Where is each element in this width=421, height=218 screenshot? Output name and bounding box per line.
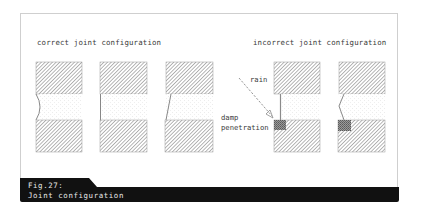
joint-correct-weathered — [165, 62, 213, 152]
damp-label: damp — [221, 113, 238, 123]
joint-correct-flush — [100, 62, 147, 152]
figure-number: Fig.27: — [28, 181, 63, 190]
joint-incorrect-recessed — [274, 62, 320, 152]
joint-correct-concave — [36, 62, 82, 152]
damp-area — [338, 120, 351, 131]
joint-incorrect-v-struck — [338, 62, 385, 152]
rain-label: rain — [250, 75, 267, 85]
penetration-label: penetration — [221, 123, 269, 133]
damp-area — [274, 120, 286, 130]
figure-title: Joint configuration — [28, 191, 124, 200]
